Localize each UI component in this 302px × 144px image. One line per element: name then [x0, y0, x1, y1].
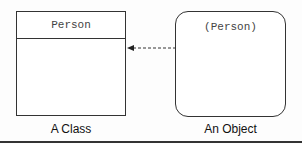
class-name: Person	[17, 12, 125, 39]
diagram-canvas: Person (Person) A Class An Object	[0, 0, 302, 144]
bottom-divider	[0, 141, 302, 143]
object-caption: An Object	[175, 122, 286, 136]
class-caption: A Class	[16, 122, 126, 136]
object-box: (Person)	[175, 11, 286, 117]
class-box: Person	[16, 11, 126, 116]
object-name: (Person)	[176, 21, 285, 33]
dashed-arrow-icon	[125, 43, 177, 53]
